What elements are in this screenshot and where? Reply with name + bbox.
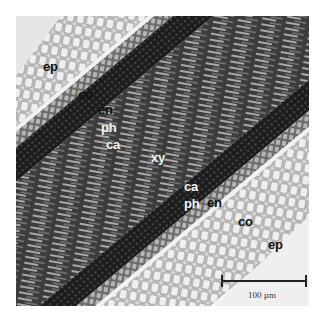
- label-phloem-bottom: ph: [184, 197, 199, 210]
- label-cambium-bottom: ca: [184, 180, 198, 193]
- label-endodermis-bottom: en: [207, 196, 222, 209]
- label-epidermis-bottom: ep: [268, 238, 283, 251]
- label-cortex-top: co: [78, 88, 93, 101]
- label-xylem: xy: [151, 151, 165, 164]
- scale-bar-label: 100 µm: [248, 290, 276, 300]
- label-cambium-top: ca: [106, 138, 120, 151]
- label-cortex-bottom: co: [238, 215, 253, 228]
- label-endodermis-top: en: [98, 103, 113, 116]
- label-phloem-top: ph: [101, 121, 116, 134]
- scale-bar: [221, 280, 307, 282]
- label-epidermis-top: ep: [43, 60, 58, 73]
